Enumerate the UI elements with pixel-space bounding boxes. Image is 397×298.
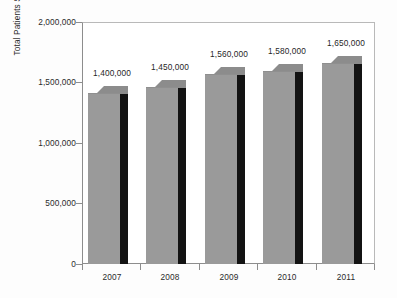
bar-front-face-2009 xyxy=(205,74,237,264)
bar-front-face-2010 xyxy=(263,71,295,264)
data-label-2011: 1,650,000 xyxy=(318,38,374,48)
bar-front-face-2008 xyxy=(146,87,178,264)
bar-side-face-2007 xyxy=(120,94,128,264)
x-tick-label-2007: 2007 xyxy=(83,272,141,282)
data-label-2009: 1,560,000 xyxy=(201,49,257,59)
bar-chart: Total Patients Served (estimate) 2,000,0… xyxy=(0,0,397,298)
data-label-2010: 1,580,000 xyxy=(259,46,315,56)
x-tick-label-2011: 2011 xyxy=(317,272,375,282)
bar-side-face-2008 xyxy=(178,88,186,264)
bar-side-face-2011 xyxy=(354,64,362,264)
x-tick-label-2009: 2009 xyxy=(200,272,258,282)
bar-side-face-2009 xyxy=(237,75,245,264)
bar-side-face-2010 xyxy=(295,72,303,264)
x-tick-label-2010: 2010 xyxy=(258,272,316,282)
x-tick-label-2008: 2008 xyxy=(141,272,199,282)
bar-front-face-2007 xyxy=(88,93,120,264)
bar-front-face-2011 xyxy=(322,63,354,264)
data-label-2008: 1,450,000 xyxy=(142,62,198,72)
data-label-2007: 1,400,000 xyxy=(84,68,140,78)
